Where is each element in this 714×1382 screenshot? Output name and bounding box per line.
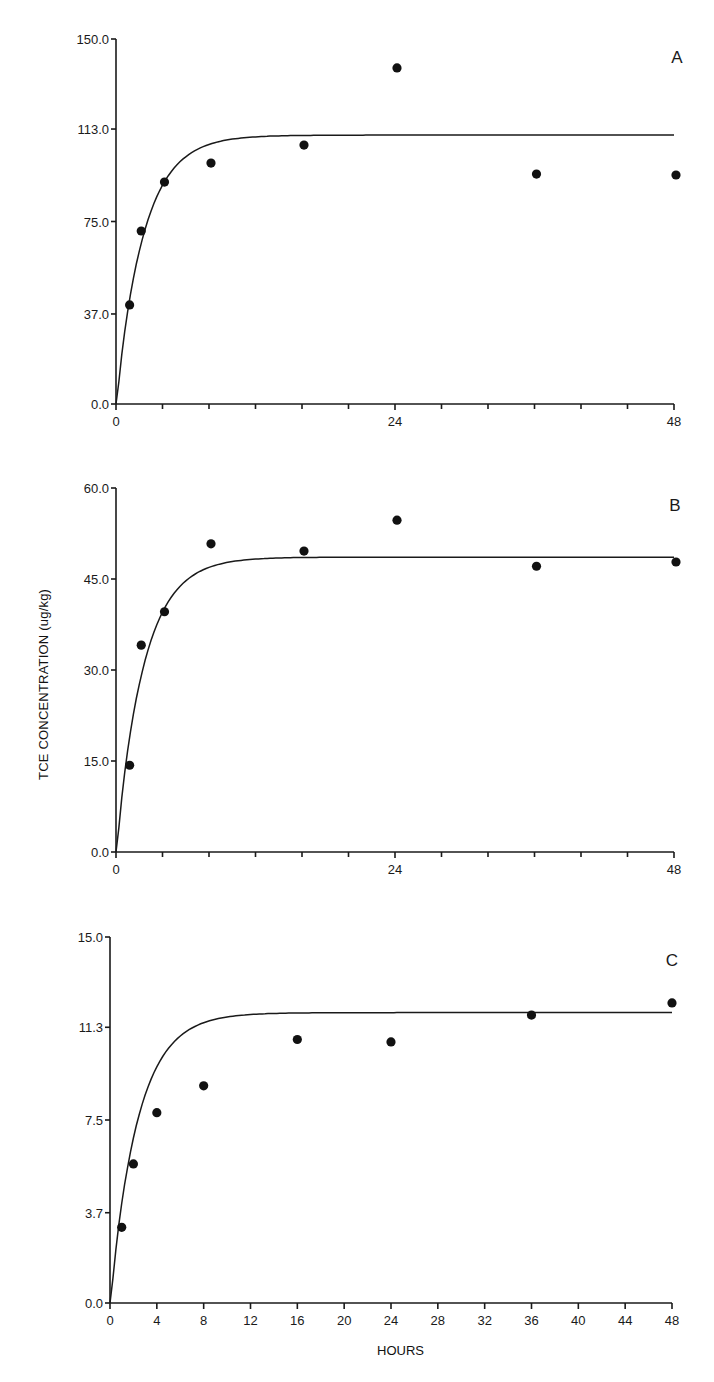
data-point bbox=[386, 1037, 395, 1046]
x-tick-label: 36 bbox=[524, 1313, 538, 1328]
data-point bbox=[299, 140, 308, 149]
data-point bbox=[129, 1159, 138, 1168]
y-tick-label: 7.5 bbox=[85, 1113, 103, 1128]
data-point bbox=[392, 516, 401, 525]
x-tick-label: 24 bbox=[384, 1313, 398, 1328]
data-point bbox=[206, 159, 215, 168]
x-tick-label: 0 bbox=[106, 1313, 113, 1328]
y-axis-title: TCE CONCENTRATION (ug/kg) bbox=[36, 589, 51, 780]
y-tick-label: 0.0 bbox=[91, 397, 109, 412]
data-point bbox=[527, 1010, 536, 1019]
x-tick-label: 48 bbox=[667, 862, 681, 877]
data-point bbox=[299, 546, 308, 555]
y-tick-label: 15.0 bbox=[78, 930, 103, 945]
data-point bbox=[532, 169, 541, 178]
y-tick-label: 75.0 bbox=[84, 215, 109, 230]
x-tick-label: 20 bbox=[337, 1313, 351, 1328]
data-point bbox=[137, 641, 146, 650]
x-tick-label: 8 bbox=[200, 1313, 207, 1328]
data-point bbox=[160, 177, 169, 186]
x-tick-label: 28 bbox=[431, 1313, 445, 1328]
x-tick-label: 4 bbox=[153, 1313, 160, 1328]
y-tick-label: 11.3 bbox=[79, 1020, 103, 1035]
x-tick-label: 44 bbox=[618, 1313, 632, 1328]
data-point bbox=[671, 170, 680, 179]
data-point bbox=[293, 1035, 302, 1044]
data-point bbox=[125, 761, 134, 770]
data-point bbox=[532, 562, 541, 571]
panel-label: B bbox=[669, 496, 680, 515]
data-point bbox=[137, 226, 146, 235]
panel-label: C bbox=[666, 951, 678, 970]
model-fit-curve bbox=[110, 1013, 672, 1303]
data-point bbox=[152, 1108, 161, 1117]
model-fit-curve bbox=[116, 557, 674, 852]
data-point bbox=[392, 63, 401, 72]
x-tick-label: 40 bbox=[571, 1313, 585, 1328]
y-tick-label: 60.0 bbox=[84, 481, 109, 496]
y-tick-label: 3.7 bbox=[85, 1206, 103, 1221]
panel-a: 0.037.075.0113.0150.002448A bbox=[76, 32, 683, 429]
x-tick-label: 0 bbox=[112, 414, 119, 429]
model-fit-curve bbox=[116, 135, 674, 404]
x-tick-label: 48 bbox=[667, 414, 681, 429]
x-tick-label: 24 bbox=[388, 862, 402, 877]
y-tick-label: 37.0 bbox=[84, 307, 109, 322]
data-point bbox=[206, 539, 215, 548]
data-point bbox=[160, 607, 169, 616]
y-tick-label: 15.0 bbox=[84, 754, 109, 769]
data-point bbox=[667, 998, 676, 1007]
y-tick-label: 150.0 bbox=[76, 32, 109, 47]
panel-b: 0.015.030.045.060.002448B bbox=[84, 481, 682, 877]
y-tick-label: 0.0 bbox=[85, 1296, 103, 1311]
y-tick-label: 113.0 bbox=[77, 122, 109, 137]
x-axis-title: HOURS bbox=[377, 1343, 424, 1358]
figure: 0.037.075.0113.0150.002448A 0.015.030.04… bbox=[0, 0, 714, 1382]
y-tick-label: 45.0 bbox=[84, 572, 109, 587]
panel-label: A bbox=[671, 48, 683, 67]
data-point bbox=[671, 557, 680, 566]
x-tick-label: 48 bbox=[665, 1313, 679, 1328]
x-tick-label: 16 bbox=[290, 1313, 304, 1328]
x-tick-label: 12 bbox=[243, 1313, 257, 1328]
x-tick-label: 0 bbox=[112, 862, 119, 877]
data-point bbox=[125, 300, 134, 309]
chart-canvas: 0.037.075.0113.0150.002448A 0.015.030.04… bbox=[0, 0, 714, 1382]
y-tick-label: 30.0 bbox=[84, 663, 109, 678]
y-tick-label: 0.0 bbox=[91, 845, 109, 860]
x-tick-label: 24 bbox=[388, 414, 402, 429]
panel-c: 0.03.77.511.315.004812162024283236404448… bbox=[78, 930, 680, 1328]
x-tick-label: 32 bbox=[477, 1313, 491, 1328]
data-point bbox=[199, 1081, 208, 1090]
data-point bbox=[117, 1223, 126, 1232]
